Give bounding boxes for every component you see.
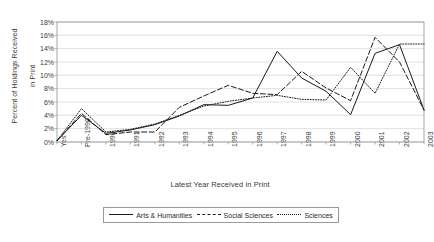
series-line-0 (57, 45, 424, 141)
x-axis-title: Latest Year Received in Print (110, 180, 330, 189)
legend-item-2[interactable]: Sciences (277, 212, 332, 219)
legend-item-1[interactable]: Social Sciences (197, 212, 273, 219)
legend-item-0[interactable]: Arts & Humanities (109, 212, 192, 219)
legend-label: Sciences (304, 212, 332, 219)
plot-frame (57, 22, 424, 142)
chart-legend: Arts & HumanitiesSocial SciencesSciences (103, 207, 339, 223)
series-line-2 (57, 44, 424, 141)
legend-swatch-dashed-icon (197, 214, 221, 216)
legend-label: Arts & Humanities (136, 212, 192, 219)
legend-label: Social Sciences (224, 212, 273, 219)
legend-swatch-dotted-icon (277, 214, 301, 216)
legend-swatch-solid-icon (109, 214, 133, 216)
series-line-1 (57, 37, 424, 140)
